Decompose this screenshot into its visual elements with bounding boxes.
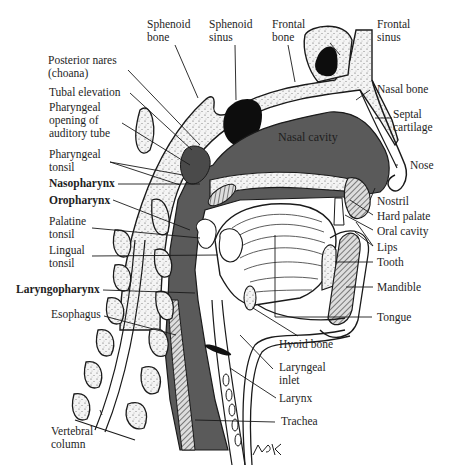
label-nasopharynx: Nasopharynx: [49, 177, 115, 190]
label-hyoid-bone: Hyoid bone: [279, 338, 333, 351]
label-trachea: Trachea: [281, 415, 318, 428]
palatine-tonsil-shape: [196, 219, 216, 248]
label-laryngeal-inlet: Laryngealinlet: [279, 361, 326, 387]
upper-tooth: [334, 198, 344, 225]
label-lips: Lips: [377, 241, 397, 254]
label-pharyngeal-tonsil: Pharyngealtonsil: [49, 148, 101, 174]
label-frontal-bone: Frontalbone: [272, 18, 305, 44]
label-nasal-bone: Nasal bone: [377, 83, 428, 96]
label-tooth: Tooth: [377, 256, 404, 269]
label-oral-cavity: Oral cavity: [377, 225, 428, 238]
lingual-tonsil-shape: [219, 229, 242, 262]
artist-signature: [253, 444, 281, 455]
label-nose: Nose: [410, 159, 434, 172]
label-nasal-cavity: Nasal cavity: [278, 131, 338, 144]
pharynx-anatomy-diagram: Sphenoidbone Sphenoidsinus Frontalbone F…: [0, 0, 455, 470]
label-larynx: Larynx: [279, 392, 312, 405]
label-esophagus: Esophagus: [51, 308, 101, 321]
label-posterior-nares: Posterior nares(choana): [48, 54, 117, 80]
label-nostril: Nostril: [377, 195, 409, 208]
label-oropharynx: Oropharynx: [49, 194, 110, 207]
label-tongue: Tongue: [377, 311, 411, 324]
label-tubal-elevation: Tubal elevation: [49, 86, 120, 99]
label-mandible: Mandible: [377, 281, 421, 294]
label-palatine-tonsil: Palatinetonsil: [49, 215, 86, 241]
hyoid-bone-shape: [244, 286, 256, 310]
label-lingual-tonsil: Lingualtonsil: [49, 244, 85, 270]
label-sphenoid-bone: Sphenoidbone: [147, 18, 190, 44]
label-vertebral-column: Vertebralcolumn: [51, 425, 93, 451]
label-pharyngeal-opening-auditory-tube: Pharyngealopening ofauditory tube: [49, 101, 110, 140]
label-laryngopharynx: Laryngopharynx: [16, 283, 100, 296]
label-sphenoid-sinus: Sphenoidsinus: [209, 18, 252, 44]
label-frontal-sinus: Frontalsinus: [377, 18, 410, 44]
label-hard-palate: Hard palate: [377, 210, 430, 223]
label-septal-cartilage: Septalcartilage: [393, 108, 433, 134]
